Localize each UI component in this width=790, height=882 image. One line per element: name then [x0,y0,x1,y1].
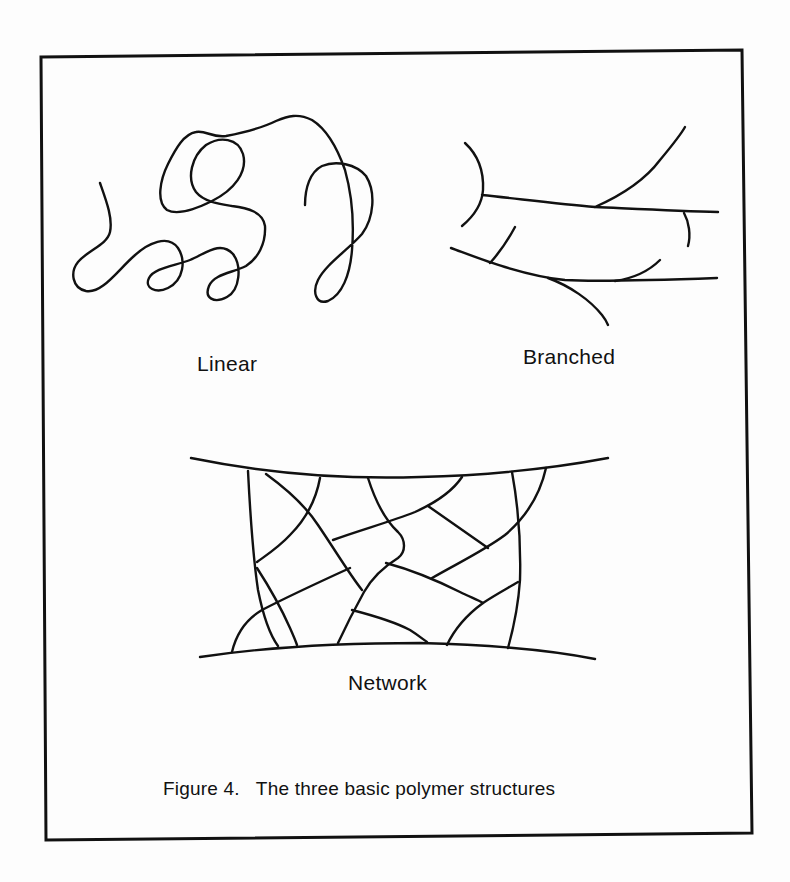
network-chain-segment [386,563,483,603]
network-chain-segment [200,643,595,659]
branched-chain-segment [462,143,483,226]
network-chain-segment [338,478,404,643]
branched-polymer-drawing [451,127,718,325]
figure-caption: Figure 4. The three basic polymer struct… [163,778,555,800]
network-chain-segment [232,568,350,652]
figure-frame [41,50,752,840]
linear-polymer-drawing [73,116,372,302]
branched-chain-segment [548,278,608,325]
linear-label: Linear [197,352,257,376]
branched-chain-segment [490,227,515,263]
polymer-structures-figure: Linear Branched Network Figure 4. The th… [0,0,790,882]
network-chain-segment [352,610,427,642]
branched-chain-segment [451,248,717,281]
figure-drawing [0,0,790,882]
branched-label: Branched [523,345,615,369]
network-chain-segment [508,472,520,648]
network-chain-segment [257,568,297,645]
network-chain-segment [432,468,546,578]
branched-chain-segment [595,127,685,207]
network-label: Network [348,671,427,695]
network-chain-segment [428,506,488,548]
network-chain-segment [266,474,362,590]
branched-chain-segment [684,213,689,246]
network-polymer-drawing [191,458,608,659]
linear-chain-segment [73,116,372,302]
branched-chain-segment [615,260,660,281]
